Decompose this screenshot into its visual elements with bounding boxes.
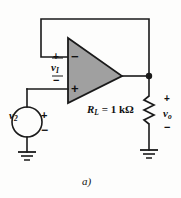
load-resistor-label: RL = 1 kΩ (87, 104, 134, 117)
output-voltage-label: vo (163, 108, 172, 121)
vo-plus-sign: + (164, 94, 170, 104)
load-resistor-value: = 1 kΩ (99, 103, 134, 115)
vo-minus-sign: − (164, 122, 170, 133)
opamp-noninverting-input-sign: + (71, 82, 79, 95)
source-plus-sign: + (41, 110, 47, 121)
input-voltage-label: vI (51, 62, 59, 75)
output-voltage-subscript: o (168, 112, 172, 121)
circuit-schematic-svg (0, 0, 181, 198)
load-resistor-symbol (144, 96, 154, 124)
circuit-figure: − + + vI − v2 + − RL = 1 kΩ + vo − a) (0, 0, 181, 198)
opamp-inverting-input-sign: − (71, 50, 79, 63)
source-voltage-subscript: 2 (14, 114, 18, 123)
ground-source-icon (18, 152, 36, 160)
vi-minus-sign: − (53, 75, 59, 86)
source-voltage-label: v2 (9, 110, 18, 123)
ground-load-icon (140, 150, 158, 158)
source-minus-sign: − (41, 124, 48, 136)
figure-caption: a) (82, 176, 91, 187)
